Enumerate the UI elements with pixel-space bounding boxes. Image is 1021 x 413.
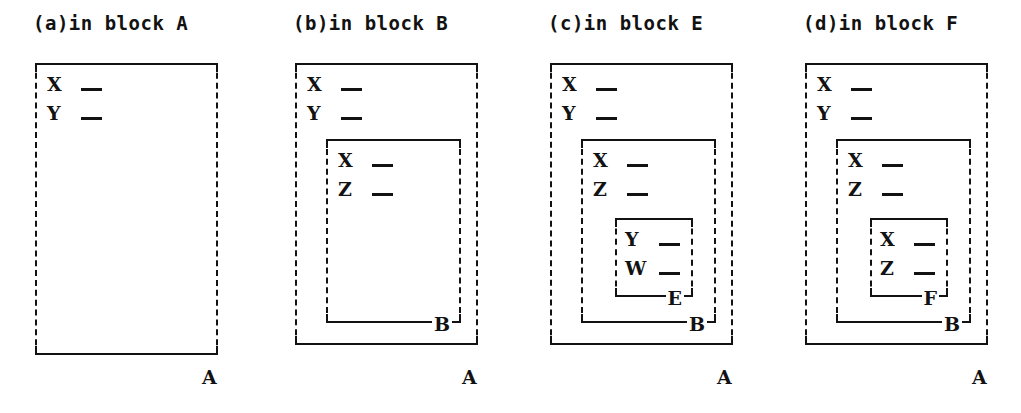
block-edge-bottom [35,353,218,355]
declaration-row: W [625,259,680,278]
panel-c-caption: (c)in block E [548,12,703,34]
block-edge-top [836,139,971,141]
declaration-name: X [562,75,582,94]
declaration-blank [851,88,872,91]
declaration-blank [341,117,362,120]
block-edge-top [615,218,693,220]
declaration-blank [659,243,680,246]
block-edge-left [615,218,617,297]
block-corner-top-left [836,139,838,148]
declaration-name: Z [880,259,900,278]
block-corner-top-right [476,63,478,72]
block-edge-bottom [805,343,988,345]
block-corner-bottom-left [550,336,552,345]
block-corner-bottom-right [216,346,218,355]
declaration-row: X [562,75,617,94]
panel-c-block-e: Y W E [615,218,693,297]
declaration-blank [627,193,648,196]
declaration-row: X [848,151,903,170]
block-corner-bottom-left [295,336,297,345]
declaration-row: X [880,230,935,249]
declaration-name: Z [593,180,613,199]
declaration-row: X [307,75,362,94]
block-edge-left [805,63,807,345]
declaration-blank [882,164,903,167]
block-edge-right [714,139,716,323]
declaration-name: X [848,151,868,170]
declaration-row: Z [848,180,903,199]
declaration-name: Z [338,180,358,199]
nested-scope-figure: (a)in block A X Y A (b)in block B [0,0,1021,413]
block-corner-top-left [870,218,872,227]
block-corner-top-right [731,63,733,72]
panel-b-outer-block-label: A [462,366,477,388]
declaration-row: Y [817,104,872,123]
declaration-name: X [338,151,358,170]
block-edge-right [969,139,971,323]
panel-a-caption: (a)in block A [33,12,188,34]
panel-c-outer-block-label: A [717,366,732,388]
block-corner-top-left [615,218,617,227]
block-edge-left [836,139,838,323]
declaration-name: X [817,75,837,94]
block-label: B [942,314,962,334]
block-edge-top [550,63,733,65]
block-corner-bottom-left [870,288,872,297]
block-corner-bottom-left [615,288,617,297]
panel-d-block-f: X Z F [870,218,948,297]
declaration-row: X [593,151,648,170]
declaration-blank [596,88,617,91]
declaration-blank [372,193,393,196]
panel-b-block-b: X Z B [326,139,461,323]
declaration-blank [914,272,935,275]
declaration-name: Y [817,104,837,123]
block-corner-top-right [969,139,971,148]
block-edge-right [216,63,218,355]
block-corner-bottom-right [476,336,478,345]
panel-a-outer-block-label: A [202,366,217,388]
declaration-row: Y [562,104,617,123]
block-corner-top-right [946,218,948,227]
declaration-row: X [47,75,102,94]
block-edge-left [35,63,37,355]
block-corner-bottom-right [986,336,988,345]
block-label: B [432,314,452,334]
declaration-name: Y [625,230,645,249]
block-corner-bottom-left [326,314,328,323]
declaration-name: Y [562,104,582,123]
declaration-blank [372,164,393,167]
block-corner-top-left [295,63,297,72]
block-corner-top-left [326,139,328,148]
block-corner-top-left [550,63,552,72]
block-corner-bottom-left [35,346,37,355]
panel-a: (a)in block A X Y A [0,0,260,413]
block-corner-top-right [714,139,716,148]
declaration-name: X [47,75,67,94]
block-edge-top [326,139,461,141]
declaration-name: X [307,75,327,94]
block-edge-left [870,218,872,297]
declaration-blank [914,243,935,246]
block-edge-right [459,139,461,323]
panel-d-caption: (d)in block F [803,12,958,34]
declaration-blank [851,117,872,120]
block-label: F [922,288,940,308]
block-corner-bottom-left [836,314,838,323]
declaration-name: X [593,151,613,170]
declaration-row: Y [625,230,680,249]
declaration-blank [341,88,362,91]
declaration-name: X [880,230,900,249]
declaration-blank [882,193,903,196]
block-corner-top-right [691,218,693,227]
block-corner-top-left [35,63,37,72]
block-corner-top-right [459,139,461,148]
declaration-row: Y [307,104,362,123]
block-corner-top-left [805,63,807,72]
declaration-name: Z [848,180,868,199]
declaration-blank [81,117,102,120]
block-corner-top-left [581,139,583,148]
block-edge-top [805,63,988,65]
block-edge-bottom [550,343,733,345]
panel-c: (c)in block E X Y [520,0,780,413]
declaration-blank [659,272,680,275]
